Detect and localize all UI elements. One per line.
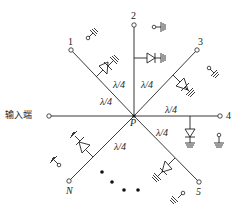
port-N-label: N (66, 186, 73, 196)
ellipsis-dot-2 (110, 180, 114, 184)
port-2-label: 2 (131, 11, 136, 21)
ellipsis-dot-1 (100, 170, 104, 174)
ellipsis-dot-4 (136, 188, 140, 192)
segment-label-arm-5: λ/4 (156, 128, 168, 138)
circuit-schematic (0, 0, 241, 215)
port-4-terminal (218, 114, 222, 118)
ground-symbol-arm-3 (207, 66, 219, 78)
port-N-terminal (67, 179, 71, 183)
diode-switch-arm-5 (152, 158, 175, 182)
port-3-label: 3 (198, 37, 203, 47)
segment-label-arm-1: λ/4 (113, 80, 125, 90)
ground-symbol-arm-4 (214, 133, 224, 147)
port-1-label: 1 (68, 37, 73, 47)
port-input-terminal (47, 114, 51, 118)
port-1-terminal (69, 48, 73, 52)
segment-label-arm-4: λ/4 (165, 105, 177, 115)
diode-switch-arm-1 (96, 55, 119, 77)
port-5-label: 5 (196, 187, 201, 197)
diode-switch-arm-3 (173, 75, 195, 97)
diode-switch-arm-4 (185, 116, 195, 147)
ground-symbol-arm-N (50, 156, 61, 167)
ellipsis-dot-3 (122, 188, 126, 192)
power-divider-diagram: 输入端 P 1 2 3 4 5 N λ/4 λ/4 λ/4 λ/4 λ/4 λ/… (0, 0, 241, 215)
diode-switch-arm-N (70, 131, 93, 157)
ground-symbol-arm-2 (152, 22, 165, 32)
port-4-label: 4 (226, 111, 231, 121)
ground-symbol-arm-5 (170, 191, 185, 204)
diode-switch-arm-2 (134, 53, 165, 63)
center-label-P: P (130, 118, 136, 128)
segment-label-arm-N: λ/4 (114, 142, 126, 152)
port-2-terminal (132, 23, 136, 27)
ground-symbol-arm-1 (86, 28, 98, 40)
port-3-terminal (195, 48, 199, 52)
port-5-terminal (197, 180, 201, 184)
segment-label-arm-2: λ/4 (141, 80, 153, 90)
segment-label-input: λ/4 (100, 97, 112, 107)
input-terminal-label: 输入端 (5, 111, 32, 120)
